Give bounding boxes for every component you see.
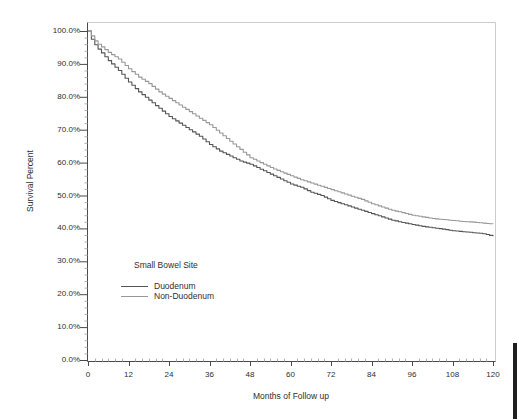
- x-tick-label: 60: [276, 370, 306, 380]
- x-tick-label: 96: [397, 370, 427, 380]
- axis-lines: [88, 23, 496, 362]
- x-tick-label: 24: [154, 370, 184, 380]
- non-duodenum-curve: [88, 31, 493, 224]
- duodenum-line-swatch: [121, 286, 148, 287]
- y-tick-label: 80.0%: [36, 92, 80, 102]
- x-major-ticks: [89, 362, 494, 367]
- y-tick-label: 40.0%: [36, 223, 80, 233]
- legend-label-non-duodenum: Non-Duodenum: [154, 291, 214, 301]
- y-major-ticks: [80, 32, 88, 361]
- y-tick-label: 100.0%: [36, 26, 80, 36]
- legend-entry-duodenum: Duodenum: [121, 281, 214, 291]
- duodenum-curve: [88, 31, 493, 236]
- x-tick-label: 84: [357, 370, 387, 380]
- x-tick-label: 108: [438, 370, 468, 380]
- non-duodenum-line-swatch: [121, 296, 148, 297]
- x-axis-title: Months of Follow up: [191, 391, 391, 401]
- y-tick-label: 60.0%: [36, 158, 80, 168]
- y-tick-label: 0.0%: [36, 355, 80, 365]
- x-tick-label: 120: [478, 370, 508, 380]
- x-tick-label: 0: [73, 370, 103, 380]
- y-tick-label: 90.0%: [36, 59, 80, 69]
- legend-label-duodenum: Duodenum: [154, 281, 196, 291]
- x-tick-label: 36: [195, 370, 225, 380]
- y-tick-label: 20.0%: [36, 289, 80, 299]
- y-tick-label: 30.0%: [36, 256, 80, 266]
- plot-border-light: [88, 23, 496, 362]
- y-tick-label: 10.0%: [36, 322, 80, 332]
- legend: Small Bowel Site Duodenum Non-Duodenum: [121, 260, 214, 301]
- survival-chart-figure: Survival Percent Months of Follow up 100…: [0, 0, 519, 420]
- y-tick-label: 50.0%: [36, 191, 80, 201]
- x-tick-label: 72: [316, 370, 346, 380]
- legend-entry-non-duodenum: Non-Duodenum: [121, 291, 214, 301]
- legend-title: Small Bowel Site: [134, 260, 214, 270]
- screen-edge-artifact-bar: [513, 343, 517, 419]
- x-tick-label: 12: [114, 370, 144, 380]
- y-tick-label: 70.0%: [36, 125, 80, 135]
- x-tick-label: 48: [235, 370, 265, 380]
